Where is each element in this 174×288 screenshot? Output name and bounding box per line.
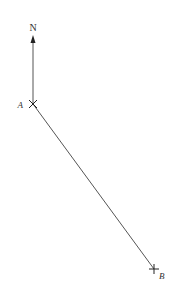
- north-label: N: [29, 22, 36, 33]
- bearing-diagram: N A B: [0, 0, 174, 288]
- point-a-label: A: [17, 100, 24, 110]
- north-arrow-icon: [31, 35, 36, 43]
- point-b-label: B: [159, 271, 165, 281]
- point-b-cross-icon: [149, 264, 159, 274]
- line-a-to-b: [33, 104, 154, 269]
